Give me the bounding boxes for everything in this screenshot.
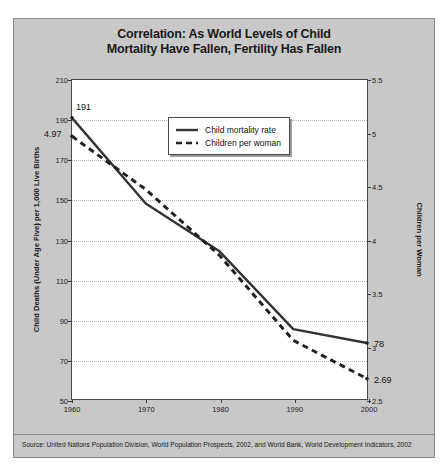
left-axis-tick-mark [68, 160, 72, 161]
chart-figure: Correlation: As World Levels of Child Mo… [13, 18, 435, 458]
data-label-2-69: 2.69 [374, 375, 392, 385]
x-axis-tick-label: 2000 [361, 405, 378, 414]
left-axis-tick-label: 130 [55, 236, 68, 245]
left-axis-tick-label: 70 [60, 356, 68, 365]
right-axis-tick-mark [367, 80, 371, 81]
left-axis-title-text: Child Deaths (Under Age Five) per 1,000 … [33, 147, 42, 332]
x-axis-tick-mark [295, 399, 296, 403]
data-label-78: 78 [374, 339, 384, 349]
right-axis-tick-mark [367, 348, 371, 349]
chart-title: Correlation: As World Levels of Child Mo… [14, 27, 434, 57]
left-axis-tick-label: 170 [55, 156, 68, 165]
x-axis-tick-mark [221, 399, 222, 403]
data-point-marker [70, 135, 74, 139]
left-axis-tick-mark [68, 321, 72, 322]
left-axis-title: Child Deaths (Under Age Five) per 1,000 … [30, 79, 44, 400]
right-axis-tick-mark [367, 241, 371, 242]
x-axis-tick-mark [72, 399, 73, 403]
right-axis-title: Children per Woman [412, 79, 426, 400]
legend-key-dashed-icon [175, 138, 199, 148]
x-axis-tick-label: 1980 [212, 405, 229, 414]
x-axis-tick-label: 1960 [64, 405, 81, 414]
left-axis-tick-mark [68, 281, 72, 282]
source-bar: Source: United Nations Population Divisi… [14, 434, 434, 457]
left-axis-tick-label: 210 [55, 76, 68, 85]
x-axis-tick-label: 1970 [138, 405, 155, 414]
legend-label-children-per-woman: Children per woman [205, 138, 281, 148]
left-axis-tick-label: 90 [60, 316, 68, 325]
data-label-191: 191 [76, 102, 91, 112]
left-axis-tick-mark [68, 241, 72, 242]
legend-label-child-mortality-rate: Child mortality rate [205, 125, 276, 135]
left-axis-tick-label: 190 [55, 116, 68, 125]
left-axis-tick-label: 110 [56, 276, 68, 285]
right-axis-tick-mark [367, 187, 371, 188]
right-axis-tick-mark [367, 294, 371, 295]
right-axis-tick-mark [367, 134, 371, 135]
legend-key-solid-icon [175, 125, 199, 135]
x-axis-tick-label: 1990 [286, 405, 303, 414]
data-label-4-97: 4.97 [44, 129, 62, 139]
right-axis-tick-label: 4.5 [372, 183, 382, 192]
chart-title-line-1: Correlation: As World Levels of Child [14, 27, 434, 42]
right-axis-title-text: Children per Woman [415, 202, 424, 276]
x-axis-tick-mark [146, 399, 147, 403]
left-axis-tick-mark [68, 361, 72, 362]
left-axis-tick-label: 150 [55, 196, 68, 205]
left-axis-tick-mark [68, 120, 72, 121]
data-point-marker [365, 341, 369, 345]
left-axis-tick-mark [68, 200, 72, 201]
chart-title-line-2: Mortality Have Fallen, Fertility Has Fal… [14, 42, 434, 57]
data-point-marker [70, 116, 74, 120]
series-line-children-per-woman [72, 136, 367, 378]
right-axis-tick-label: 5.5 [372, 76, 382, 85]
x-axis-tick-mark [369, 399, 370, 403]
legend-item-children-per-woman: Children per woman [175, 136, 281, 149]
right-axis-tick-label: 3.5 [372, 290, 382, 299]
legend-item-child-mortality-rate: Child mortality rate [175, 123, 281, 136]
right-axis-tick-label: 5 [372, 129, 376, 138]
left-axis-tick-mark [68, 80, 72, 81]
data-point-marker [365, 377, 369, 381]
right-axis-tick-label: 4 [372, 236, 376, 245]
source-note: Source: United Nations Population Divisi… [22, 441, 412, 448]
chart-legend: Child mortality rate Children per woman [168, 117, 290, 155]
